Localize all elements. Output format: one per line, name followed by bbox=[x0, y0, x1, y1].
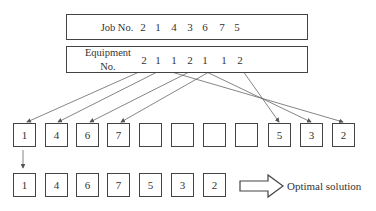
job-number: 3 bbox=[185, 21, 195, 33]
equipment-number: 1 bbox=[200, 54, 210, 66]
job-number: 7 bbox=[217, 21, 227, 33]
right-arrow-icon bbox=[240, 175, 283, 197]
schedule-slot: 3 bbox=[300, 123, 323, 147]
schedule-slot: 2 bbox=[332, 123, 355, 147]
schedule-slot-empty bbox=[171, 123, 194, 147]
schedule-slot-empty bbox=[235, 123, 258, 147]
equipment-label-line1: Equipment bbox=[78, 47, 138, 58]
schedule-slot: 1 bbox=[13, 123, 36, 147]
result-slot: 1 bbox=[13, 173, 36, 197]
job-number: 5 bbox=[232, 21, 242, 33]
schedule-slot-empty bbox=[203, 123, 226, 147]
job-number-label: Job No. bbox=[92, 22, 142, 33]
result-slot: 6 bbox=[76, 173, 99, 197]
schedule-slot-empty bbox=[139, 123, 162, 147]
schedule-slot: 6 bbox=[76, 123, 99, 147]
result-slot: 5 bbox=[139, 173, 162, 197]
job-number: 2 bbox=[138, 21, 148, 33]
equipment-number: 2 bbox=[139, 54, 149, 66]
schedule-slot: 5 bbox=[268, 123, 291, 147]
schedule-slot: 4 bbox=[45, 123, 68, 147]
result-slot: 4 bbox=[45, 173, 68, 197]
job-number: 4 bbox=[169, 21, 179, 33]
job-number: 1 bbox=[153, 21, 163, 33]
equipment-number: 1 bbox=[169, 54, 179, 66]
result-slot: 2 bbox=[203, 173, 226, 197]
result-slot: 3 bbox=[171, 173, 194, 197]
job-number: 6 bbox=[200, 21, 210, 33]
equipment-number: 2 bbox=[185, 54, 195, 66]
equipment-label-line2: No. bbox=[78, 61, 138, 72]
result-slot: 7 bbox=[107, 173, 130, 197]
schedule-slot: 7 bbox=[107, 123, 130, 147]
optimal-solution-label: Optimal solution bbox=[287, 180, 361, 192]
equipment-number-label: Equipment No. bbox=[78, 47, 138, 72]
equipment-number: 1 bbox=[153, 54, 163, 66]
equipment-number: 1 bbox=[219, 54, 229, 66]
equipment-number: 2 bbox=[235, 54, 245, 66]
